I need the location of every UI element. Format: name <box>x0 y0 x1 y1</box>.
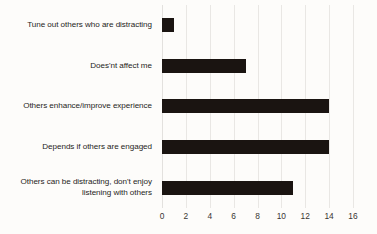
category-label-line: Depends if others are engaged <box>0 142 152 153</box>
x-tick-label-2: 2 <box>184 210 189 222</box>
category-label: Others can be distracting, don't enjoyli… <box>0 177 157 198</box>
x-tick-label-12: 12 <box>301 210 310 222</box>
category-label-line: Tune out others who are distracting <box>0 20 152 31</box>
category-label-line: listening with others <box>0 188 152 199</box>
bar-row <box>162 46 353 87</box>
x-tick-label-6: 6 <box>231 210 236 222</box>
category-label-line: Others can be distracting, don't enjoy <box>0 177 152 188</box>
x-tick-label-14: 14 <box>324 210 333 222</box>
bar-chart: Tune out others who are distractingDoes'… <box>0 0 377 234</box>
category-label: Depends if others are engaged <box>0 142 157 153</box>
bar-row <box>162 167 353 208</box>
gridline-16 <box>353 5 354 208</box>
x-tick-label-4: 4 <box>207 210 212 222</box>
plot-area <box>162 5 353 208</box>
x-tick-label-0: 0 <box>160 210 165 222</box>
bar <box>162 59 246 73</box>
category-label: Others enhance/improve experience <box>0 101 157 112</box>
bar <box>162 18 174 32</box>
x-axis-tick-labels: 0246810121416 <box>162 210 353 226</box>
x-tick-label-10: 10 <box>277 210 286 222</box>
category-label: Tune out others who are distracting <box>0 20 157 31</box>
x-tick-label-16: 16 <box>348 210 357 222</box>
bar <box>162 140 329 154</box>
bar-row <box>162 86 353 127</box>
category-axis-labels: Tune out others who are distractingDoes'… <box>0 5 157 208</box>
category-label-line: Others enhance/improve experience <box>0 101 152 112</box>
bar-row <box>162 5 353 46</box>
bar-row <box>162 127 353 168</box>
x-tick-label-8: 8 <box>255 210 260 222</box>
bar <box>162 181 293 195</box>
category-label-line: Does'nt affect me <box>0 61 152 72</box>
category-label: Does'nt affect me <box>0 61 157 72</box>
bar-series <box>162 5 353 208</box>
bar <box>162 99 329 113</box>
